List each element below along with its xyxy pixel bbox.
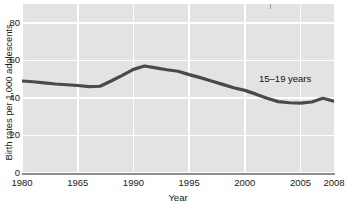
y-axis-tick-labels: 020406080: [0, 4, 20, 173]
y-tick-label: 80: [0, 18, 20, 28]
x-tick-label: 1980: [0, 177, 45, 188]
plot-inner: [22, 4, 334, 173]
y-tick-label: 60: [0, 55, 20, 65]
x-tick-label: 2008: [311, 177, 349, 188]
x-tick-label: 1990: [110, 177, 156, 188]
x-tick-label: 2000: [222, 177, 268, 188]
x-tick-label: 1995: [166, 177, 212, 188]
series-line-15-19-years: [22, 4, 334, 173]
top-axis-tick: [270, 4, 271, 9]
series-label-annotation: 15–19 years: [259, 73, 311, 84]
x-axis-tick-labels: 1980196519901995200020052008: [0, 177, 335, 189]
y-tick-label: 40: [0, 93, 20, 103]
y-tick-label: 20: [0, 130, 20, 140]
x-tick-label: 1965: [55, 177, 101, 188]
x-axis-title: Year: [22, 192, 334, 204]
x-axis-baseline: [22, 173, 335, 175]
plot-area: [22, 4, 334, 173]
